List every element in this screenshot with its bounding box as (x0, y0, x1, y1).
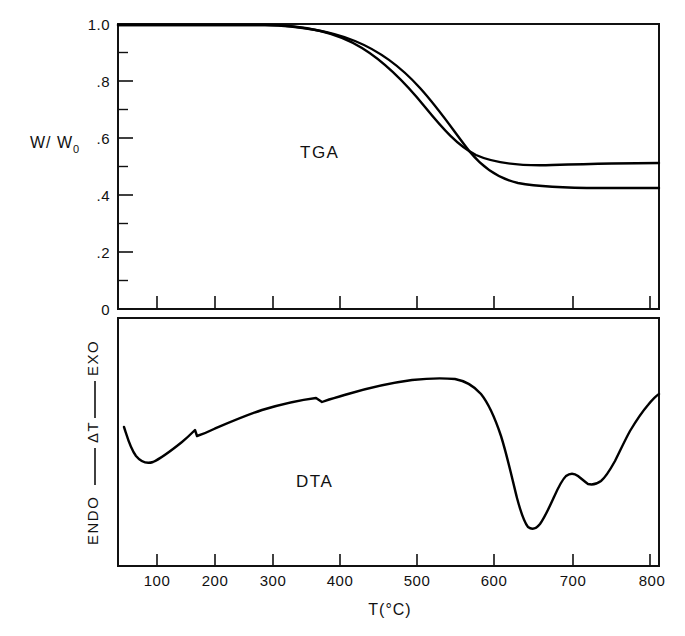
xtick-800: 800 (639, 572, 666, 589)
tga-y-axis-title-main: W/ W (30, 134, 73, 151)
dta-x-ticks (157, 554, 650, 566)
dta-plot-frame (118, 318, 659, 566)
dta-curve (124, 378, 659, 528)
xtick-700: 700 (560, 572, 587, 589)
xtick-100: 100 (144, 572, 171, 589)
tga-y-axis-title-sub: 0 (73, 143, 80, 155)
tga-y-axis-title: W/ W0 (30, 134, 80, 155)
xtick-300: 300 (260, 572, 287, 589)
dta-delta-t-label: ΔT (84, 421, 101, 443)
tga-curve-plateau (118, 25, 659, 165)
tga-ytick-0: 0 (101, 301, 110, 318)
tga-ytick-0.4: .4 (96, 187, 110, 204)
dta-endo-label: ENDO (84, 496, 101, 545)
xtick-600: 600 (481, 572, 508, 589)
tga-ytick-0.6: .6 (96, 130, 110, 147)
dta-exo-label: EXO (84, 340, 101, 376)
tga-panel: 1.0 .8 .6 .4 .2 0 W/ W0 (30, 16, 659, 318)
tga-ytick-0.2: .2 (96, 244, 110, 261)
tga-x-ticks (157, 296, 650, 309)
xtick-500: 500 (404, 572, 431, 589)
tga-y-minor-ticks (118, 53, 128, 281)
dta-panel-label: DTA (296, 472, 333, 491)
tga-panel-label: TGA (300, 143, 339, 162)
tga-ytick-0.8: .8 (96, 73, 110, 90)
x-axis-title: T(°C) (368, 601, 411, 618)
figure-container: 1.0 .8 .6 .4 .2 0 W/ W0 (0, 0, 685, 636)
dta-y-axis-title: ENDO ΔT EXO (84, 340, 101, 545)
xtick-200: 200 (202, 572, 229, 589)
dta-panel: 100 200 300 400 500 600 700 800 T(°C) EN… (84, 318, 665, 618)
xtick-400: 400 (327, 572, 354, 589)
tga-ytick-1.0: 1.0 (88, 16, 110, 33)
tga-dta-figure: 1.0 .8 .6 .4 .2 0 W/ W0 (0, 0, 685, 636)
